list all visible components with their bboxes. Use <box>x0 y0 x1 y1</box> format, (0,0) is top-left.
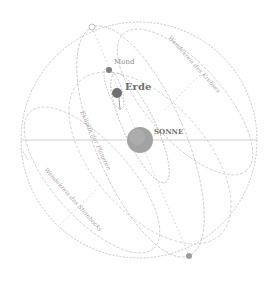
earth-axis <box>119 97 120 110</box>
ecliptic-ellipse <box>39 43 261 273</box>
moon-body <box>106 67 112 73</box>
tropic-lower-ellipse <box>2 86 182 274</box>
sun-label: SONNE <box>154 127 183 136</box>
earth-body <box>112 88 122 98</box>
pole-bottom-marker <box>186 253 192 259</box>
diagram-canvas: Mond Erde SONNE Wendekreis des Krebses E… <box>0 0 276 283</box>
tropic-lower-label: Wendekreis des Steinbocks <box>43 166 104 233</box>
tick-upper <box>165 75 200 110</box>
sun-highlight <box>129 129 145 145</box>
pole-top-marker <box>89 24 95 30</box>
earth-label: Erde <box>125 81 151 92</box>
moon-label: Mond <box>114 58 135 66</box>
celestial-sphere-diagram: Mond Erde SONNE Wendekreis des Krebses E… <box>0 0 276 283</box>
tropic-upper-label: Wendekreis des Krebses <box>167 34 222 94</box>
